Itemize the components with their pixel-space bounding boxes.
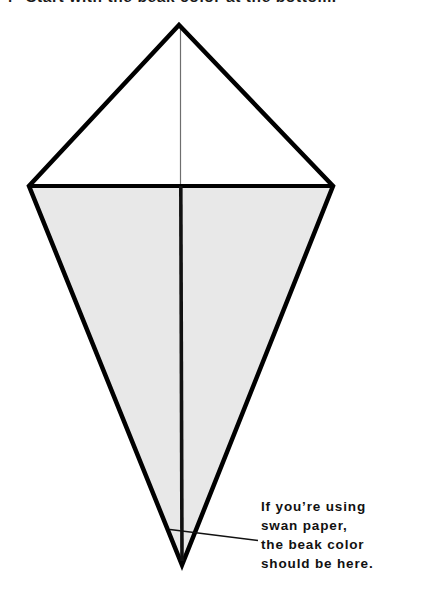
caption-line: the beak color xyxy=(261,535,425,554)
caption-line: swan paper, xyxy=(261,516,425,535)
center-crease-lower xyxy=(181,186,182,561)
caption-line: If you’re using xyxy=(261,497,425,516)
diagram-page: 4Start with the beak color at the bottom… xyxy=(0,0,425,612)
caption-line: should be here. xyxy=(261,554,425,573)
caption-block: If you’re using swan paper, the beak col… xyxy=(261,497,425,573)
